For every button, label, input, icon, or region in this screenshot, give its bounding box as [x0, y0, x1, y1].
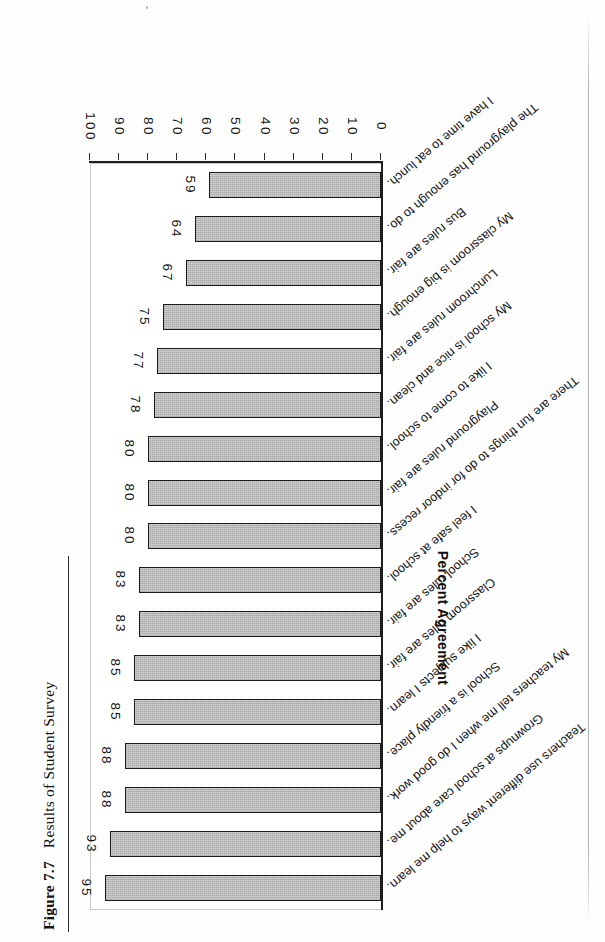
bar [139, 611, 381, 637]
axis-tick-label: 10 [344, 117, 359, 137]
bar [110, 831, 381, 857]
axis-tick [351, 153, 352, 160]
bar-value-label: 85 [108, 659, 123, 678]
figure-bar-chart: 1009080706050403020100 Percent Agreement… [78, 14, 583, 926]
axis-tick-label: 20 [315, 117, 330, 137]
bar-row: 78 [90, 392, 381, 418]
scan-speck [146, 6, 148, 9]
value-axis-line [381, 162, 383, 910]
bar-row: 83 [90, 567, 381, 593]
bar-row: 95 [90, 875, 381, 901]
axis-tick [322, 153, 323, 160]
bar-value-label: 77 [131, 351, 146, 370]
bar-value-label: 83 [113, 615, 128, 634]
figure-caption-title: Results of Student Survey [40, 682, 58, 848]
axis-tick [176, 153, 177, 160]
bar-value-label: 80 [122, 439, 137, 458]
axis-tick-label: 0 [374, 122, 389, 132]
bar-row: 80 [90, 480, 381, 506]
bar-row: 75 [90, 304, 381, 330]
page-edge-line [588, 14, 589, 926]
bar [148, 436, 381, 462]
bar-value-label: 85 [108, 703, 123, 722]
axis-tick [89, 153, 90, 160]
bar-value-label: 78 [128, 395, 143, 414]
bar-value-label: 88 [99, 747, 114, 766]
bar [134, 655, 381, 681]
axis-tick-label: 60 [199, 117, 214, 137]
bar [125, 743, 381, 769]
axis-tick-label: 40 [257, 117, 272, 137]
bar [125, 787, 381, 813]
bar-value-label: 95 [79, 879, 94, 898]
bar [148, 480, 381, 506]
bar-row: 83 [90, 611, 381, 637]
bar-value-label: 59 [183, 175, 198, 194]
bar [163, 304, 381, 330]
bar [157, 348, 381, 374]
bar-value-label: 80 [122, 483, 137, 502]
axis-tick [293, 153, 294, 160]
axis-tick-label: 80 [141, 117, 156, 137]
bar [134, 699, 381, 725]
axis-tick-label: 100 [83, 112, 98, 142]
bar-value-label: 88 [99, 791, 114, 810]
category-label: I feel safe at school. [385, 503, 480, 586]
bar [195, 216, 381, 242]
axis-tick [380, 153, 381, 160]
bar [139, 567, 381, 593]
category-label: There are fun things to do for indoor re… [385, 374, 582, 542]
bar-row: 88 [90, 743, 381, 769]
axis-tick-label: 50 [228, 117, 243, 137]
bar-value-label: 93 [84, 835, 99, 854]
axis-tick-label: 30 [286, 117, 301, 137]
bar-row: 67 [90, 260, 381, 286]
category-label: Teachers use different ways to help me l… [385, 720, 588, 893]
bar-row: 80 [90, 436, 381, 462]
bar [105, 875, 381, 901]
bar-row: 77 [90, 348, 381, 374]
bar-value-label: 83 [113, 571, 128, 590]
category-label: School rules are fair. [385, 545, 482, 630]
bar-series: 9593888885858383808080787775676459 [90, 163, 381, 910]
bar [209, 172, 381, 198]
axis-tick [147, 153, 148, 160]
bar [154, 392, 381, 418]
axis-tick-label: 70 [170, 117, 185, 137]
bar-row: 64 [90, 216, 381, 242]
bar [186, 260, 381, 286]
axis-tick [205, 153, 206, 160]
caption-rule [68, 556, 69, 932]
bar-value-label: 75 [137, 307, 152, 326]
bar-value-label: 67 [160, 263, 175, 282]
axis-tick-label: 90 [112, 117, 127, 137]
axis-tick [118, 153, 119, 160]
bar-row: 59 [90, 172, 381, 198]
bar-row: 93 [90, 831, 381, 857]
bar-value-label: 80 [122, 527, 137, 546]
bar-row: 85 [90, 655, 381, 681]
category-label: I like to come to school. [385, 359, 495, 454]
bar-row: 80 [90, 524, 381, 550]
figure-caption: Figure 7.7 Results of Student Survey [34, 550, 64, 930]
axis-tick [264, 153, 265, 160]
bar-value-label: 64 [169, 219, 184, 238]
bar-row: 85 [90, 699, 381, 725]
bar [148, 524, 381, 550]
bar-row: 88 [90, 787, 381, 813]
axis-tick [235, 153, 236, 160]
figure-caption-label: Figure 7.7 [40, 861, 58, 930]
